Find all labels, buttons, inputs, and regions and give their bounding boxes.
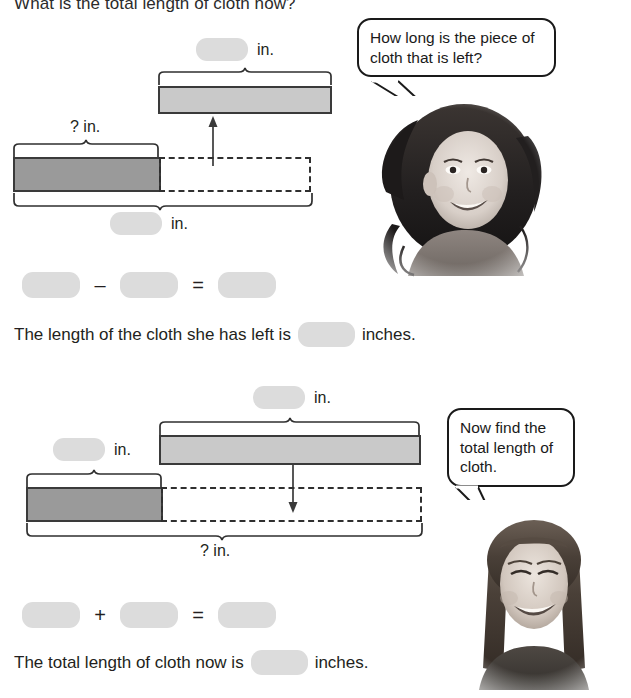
brace-top-bar-1: [157, 70, 333, 86]
equation-operand-2[interactable]: [120, 272, 178, 298]
diagram2-left-label: in.: [53, 438, 131, 461]
equation-subtraction: – =: [22, 272, 276, 298]
sentence-2-after: inches.: [315, 653, 369, 673]
bar-left-dark-1: [13, 157, 161, 192]
sentence-1-before: The length of the cloth she has left is: [14, 325, 291, 345]
unit-label: in.: [257, 41, 274, 59]
equation-operand-2[interactable]: [120, 602, 178, 628]
brace-total-1: [12, 192, 314, 210]
speech-bubble-1: How long is the piece of cloth that is l…: [357, 18, 556, 77]
diagram1-bottom-label: in.: [110, 212, 188, 235]
answer-blank[interactable]: [253, 386, 305, 409]
dashed-region-1: [159, 157, 311, 192]
equation-operand-1[interactable]: [22, 602, 80, 628]
speech-bubble-2: Now find the total length of cloth.: [447, 408, 575, 487]
dashed-region-2: [161, 487, 422, 522]
plus-sign: +: [94, 604, 106, 627]
sentence-1-after: inches.: [362, 325, 416, 345]
diagram2-total-label: ? in.: [200, 542, 230, 560]
answer-blank[interactable]: [251, 650, 308, 675]
equation-result[interactable]: [218, 272, 276, 298]
unit-label: in.: [114, 441, 131, 459]
brace-total-2: [25, 522, 425, 540]
equation-operand-1[interactable]: [22, 272, 80, 298]
sentence-1: The length of the cloth she has left is …: [14, 322, 416, 347]
minus-sign: –: [94, 274, 106, 297]
page-title: What is the total length of cloth now?: [14, 0, 296, 14]
bar-model-diagram-1: in. ? in. in.: [0, 20, 350, 270]
diagram1-top-label: in.: [196, 38, 274, 61]
equals-sign: =: [192, 274, 204, 297]
sentence-2-before: The total length of cloth now is: [14, 653, 244, 673]
bar-model-diagram-2: in. in. ? in.: [0, 382, 450, 567]
photo-girl-1: [368, 96, 551, 276]
brace-left-bar-1: [12, 142, 160, 158]
equation-addition: + =: [22, 602, 276, 628]
bar-top-light-2: [159, 435, 421, 465]
bar-left-dark-2: [26, 487, 163, 522]
brace-left-bar-2: [25, 472, 163, 488]
equation-result[interactable]: [218, 602, 276, 628]
equals-sign: =: [192, 604, 204, 627]
unit-label: in.: [171, 215, 188, 233]
unit-label: in.: [314, 389, 331, 407]
brace-top-bar-2: [158, 420, 421, 436]
diagram1-left-label: ? in.: [70, 118, 100, 136]
sentence-2: The total length of cloth now is inches.: [14, 650, 369, 675]
answer-blank[interactable]: [53, 438, 105, 461]
photo-girl-2: [443, 500, 625, 690]
answer-blank[interactable]: [196, 38, 248, 61]
answer-blank[interactable]: [298, 322, 355, 347]
bar-top-light-1: [158, 86, 332, 114]
diagram2-top-label: in.: [253, 386, 331, 409]
answer-blank[interactable]: [110, 212, 162, 235]
